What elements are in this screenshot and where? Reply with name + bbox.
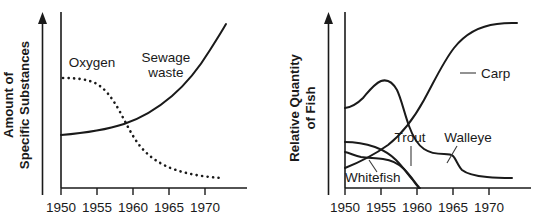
series-label-oxygen: Oxygen xyxy=(69,55,116,70)
x-ticks-fish xyxy=(345,188,489,195)
x-tick-label: 1955 xyxy=(82,200,112,215)
chart-substances: Amount of Specific Substances 1950 1955 xyxy=(1,12,247,215)
series-label-walleye: Walleye xyxy=(444,130,492,145)
y-axis-title-line1: Amount of xyxy=(1,71,16,138)
x-tick-label: 1960 xyxy=(118,200,148,215)
x-tick-label: 1970 xyxy=(474,200,504,215)
x-tick-label: 1965 xyxy=(154,200,184,215)
y-axis-title-fish: Relative Quantity of Fish xyxy=(287,53,318,161)
series-label-sewage-waste-line1: Sewage xyxy=(142,50,191,65)
y-axis-arrow-fish xyxy=(324,12,333,195)
figure-svg: Amount of Specific Substances 1950 1955 xyxy=(0,0,536,219)
chart-fish: Relative Quantity of Fish 1950 1955 196 xyxy=(287,12,531,215)
axes-fish xyxy=(345,12,531,188)
y-axis-arrow-substances xyxy=(38,12,47,195)
x-tick-labels-substances: 1950 1955 1960 1965 1970 xyxy=(46,200,220,215)
x-tick-label: 1950 xyxy=(330,200,360,215)
x-tick-label: 1955 xyxy=(366,200,396,215)
series-label-sewage-waste: Sewage waste xyxy=(142,50,191,80)
x-tick-label: 1960 xyxy=(402,200,432,215)
two-chart-figure: Amount of Specific Substances 1950 1955 xyxy=(0,0,536,219)
series-label-trout: Trout xyxy=(394,130,425,145)
y-axis-title-line1: Relative Quantity xyxy=(287,53,302,161)
x-tick-label: 1965 xyxy=(438,200,468,215)
axes-substances xyxy=(61,12,247,188)
x-tick-label: 1950 xyxy=(46,200,76,215)
y-axis-title-substances: Amount of Specific Substances xyxy=(1,41,32,169)
x-tick-label: 1970 xyxy=(190,200,220,215)
x-tick-labels-fish: 1950 1955 1960 1965 1970 xyxy=(330,200,504,215)
x-ticks-substances xyxy=(61,188,205,195)
series-curve-oxygen xyxy=(63,78,222,178)
series-label-sewage-waste-line2: waste xyxy=(147,65,183,80)
y-axis-title-line2: Specific Substances xyxy=(17,41,32,169)
series-label-carp: Carp xyxy=(481,66,510,81)
y-axis-title-line2: of Fish xyxy=(303,86,318,129)
series-label-whitefish: Whitefish xyxy=(345,170,401,185)
